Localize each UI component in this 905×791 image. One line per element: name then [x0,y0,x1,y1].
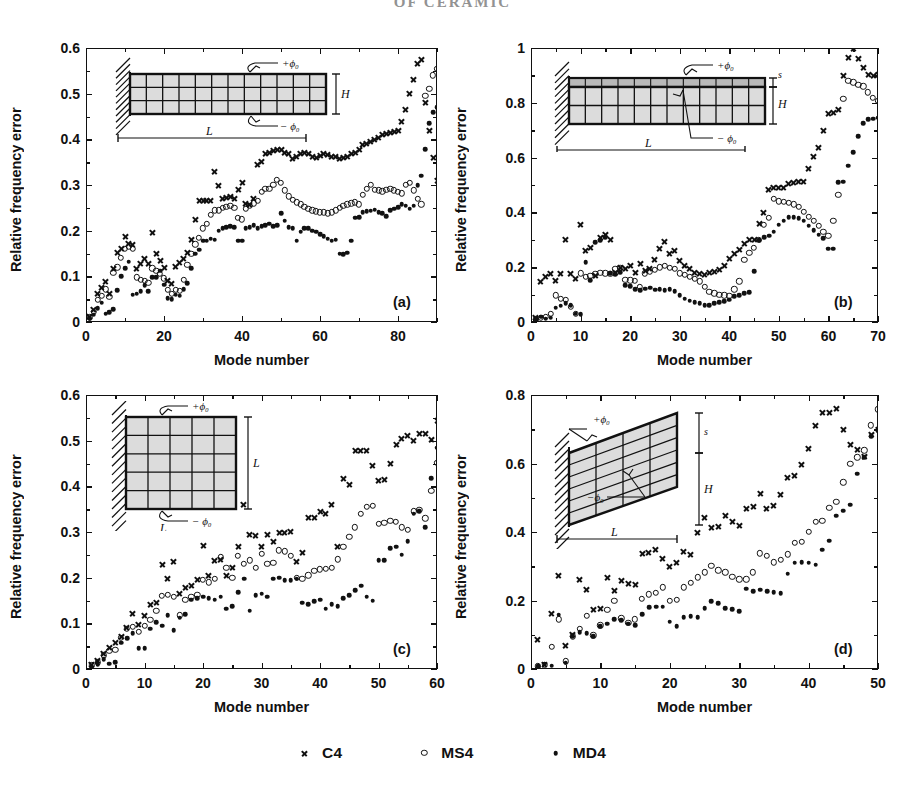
y-axis-tick [531,395,537,396]
y-axis-tick [531,532,537,533]
x-axis-tick [635,665,636,669]
x-axis-tick [809,663,810,669]
y-axis-tick-right [872,464,878,465]
svg-text:s: s [704,426,708,437]
open-circle-marker-icon [418,747,430,759]
y-axis-tick-right [872,395,878,396]
x-axis-label: Mode number [531,699,878,715]
x-axis-tick-label: 10 [593,675,609,691]
figure-legend: C4 MS4 MD4 [0,744,905,762]
y-axis-tick-right [874,498,878,499]
cross-marker-icon [299,747,311,759]
y-axis-tick-label: 0.2 [483,593,525,609]
y-axis-tick [531,498,535,499]
skew-plate-sketch: +ϕ₀ −ϕ₀ s H L [547,401,757,549]
x-axis-tick-label: 40 [801,675,817,691]
y-axis-tick-label: 0.8 [483,387,525,403]
legend-label-md4: MD4 [573,744,606,762]
y-axis-tick-label: 0 [483,661,525,677]
x-axis-tick [566,665,567,669]
y-axis-tick [531,464,537,465]
y-axis-tick-right [872,669,878,670]
svg-text:L: L [610,525,618,539]
y-axis-tick [531,566,535,567]
svg-text:−ϕ₀: −ϕ₀ [587,491,604,503]
chart-panel-d: 00.20.40.60.801020304050Relative frequen… [0,0,905,791]
y-axis-tick [531,635,535,636]
y-axis-label: Relative frequency error [453,413,469,661]
x-axis-tick-top [878,395,879,401]
y-axis-tick [531,601,537,602]
x-axis-tick [600,663,601,669]
legend-label-ms4: MS4 [441,744,473,762]
y-axis-tick [531,669,537,670]
y-axis-tick-right [874,635,878,636]
x-axis-tick-top [635,395,636,399]
x-axis-tick-top [705,395,706,399]
x-axis-tick-label: 30 [731,675,747,691]
y-axis-tick-right [874,566,878,567]
x-axis-tick-top [809,395,810,401]
y-axis-tick [531,429,535,430]
x-axis-tick [843,665,844,669]
x-axis-tick-label: 20 [662,675,678,691]
svg-text:H: H [703,482,714,496]
y-axis-tick-label: 0.6 [483,456,525,472]
legend-item-c4: C4 [299,744,342,762]
legend-label-c4: C4 [322,744,342,762]
y-axis-tick-right [872,532,878,533]
y-axis-tick-right [874,429,878,430]
x-axis-tick-label: 0 [527,675,535,691]
y-axis-tick-label: 0.4 [483,524,525,540]
x-axis-tick-top [843,395,844,399]
filled-circle-marker-icon [550,747,562,759]
x-axis-tick [774,665,775,669]
x-axis-tick-label: 50 [870,675,886,691]
y-axis-tick-right [872,601,878,602]
legend-item-md4: MD4 [550,744,606,762]
panel-label: (d) [834,641,853,657]
svg-text:+ϕ₀: +ϕ₀ [593,413,610,425]
x-axis-tick-top [566,395,567,399]
x-axis-tick [739,663,740,669]
x-axis-tick [878,663,879,669]
x-axis-tick [670,663,671,669]
x-axis-tick [705,665,706,669]
x-axis-tick-top [774,395,775,399]
legend-item-ms4: MS4 [418,744,473,762]
